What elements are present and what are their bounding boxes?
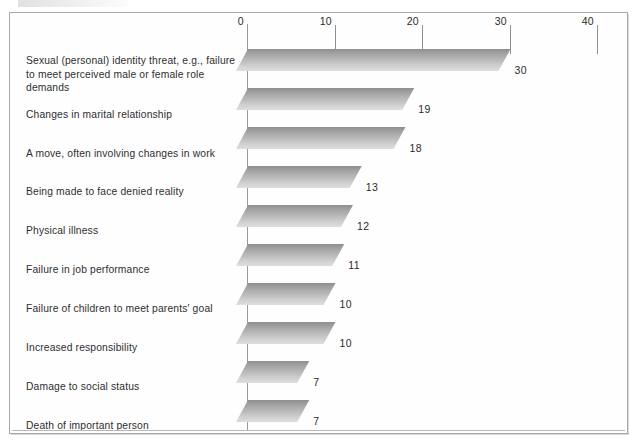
- bar-5: [236, 244, 344, 266]
- tick-label-10: 10: [313, 15, 332, 27]
- category-label-2: A move, often involving changes in work: [26, 147, 241, 161]
- bar-value-6: 10: [340, 298, 352, 310]
- category-label-4: Physical illness: [26, 224, 241, 238]
- bar-6: [236, 283, 336, 305]
- bar-value-7: 10: [340, 337, 352, 349]
- chart-figure: 0 10 20 30 40 Sexual (personal) identity…: [0, 0, 637, 446]
- bar-4: [236, 205, 353, 227]
- category-label-0: Sexual (personal) identity threat, e.g.,…: [26, 54, 241, 95]
- tick-label-40: 40: [575, 15, 594, 27]
- frame-bottom-rule: [12, 430, 625, 431]
- bar-0: [236, 49, 511, 71]
- plot-area: 0 10 20 30 40 Sexual (personal) identity…: [0, 0, 637, 446]
- bar-7: [236, 322, 336, 344]
- bar-9: [236, 400, 309, 422]
- category-label-7: Increased responsibility: [26, 341, 241, 355]
- bar-8: [236, 361, 309, 383]
- bar-value-4: 12: [357, 220, 369, 232]
- bar-value-5: 11: [348, 259, 360, 271]
- bar-1: [236, 88, 414, 110]
- bar-2: [236, 127, 406, 149]
- category-label-1: Changes in marital relationship: [26, 108, 241, 122]
- category-label-3: Being made to face denied reality: [26, 185, 241, 199]
- bar-value-2: 18: [410, 142, 422, 154]
- bar-value-3: 13: [366, 181, 378, 193]
- category-label-8: Damage to social status: [26, 380, 241, 394]
- bar-value-8: 7: [313, 376, 319, 388]
- bar-value-9: 7: [313, 415, 319, 427]
- tick-mark-40: [597, 25, 598, 54]
- bar-value-0: 30: [515, 64, 527, 76]
- bar-value-1: 19: [418, 103, 430, 115]
- tick-mark-30: [510, 25, 511, 54]
- tick-label-30: 30: [488, 15, 507, 27]
- category-label-5: Failure in job performance: [26, 263, 241, 277]
- bar-3: [236, 166, 362, 188]
- tick-label-0: 0: [227, 15, 244, 27]
- tick-label-20: 20: [400, 15, 419, 27]
- category-label-6: Failure of children to meet parents' goa…: [26, 302, 241, 316]
